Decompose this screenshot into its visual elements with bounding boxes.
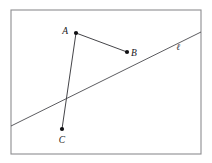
point-c-dot (60, 127, 64, 131)
point-c-label: C (59, 135, 66, 145)
point-b-dot (125, 50, 129, 54)
point-b-label: B (131, 48, 137, 58)
line-ell-label: ℓ (176, 42, 180, 52)
plane-boundary-rectangle (11, 10, 201, 154)
point-a-dot (74, 31, 78, 35)
figure-canvas: A B C ℓ (0, 0, 212, 163)
geometry-figure: A B C ℓ (0, 0, 212, 163)
point-a-label: A (61, 26, 68, 36)
